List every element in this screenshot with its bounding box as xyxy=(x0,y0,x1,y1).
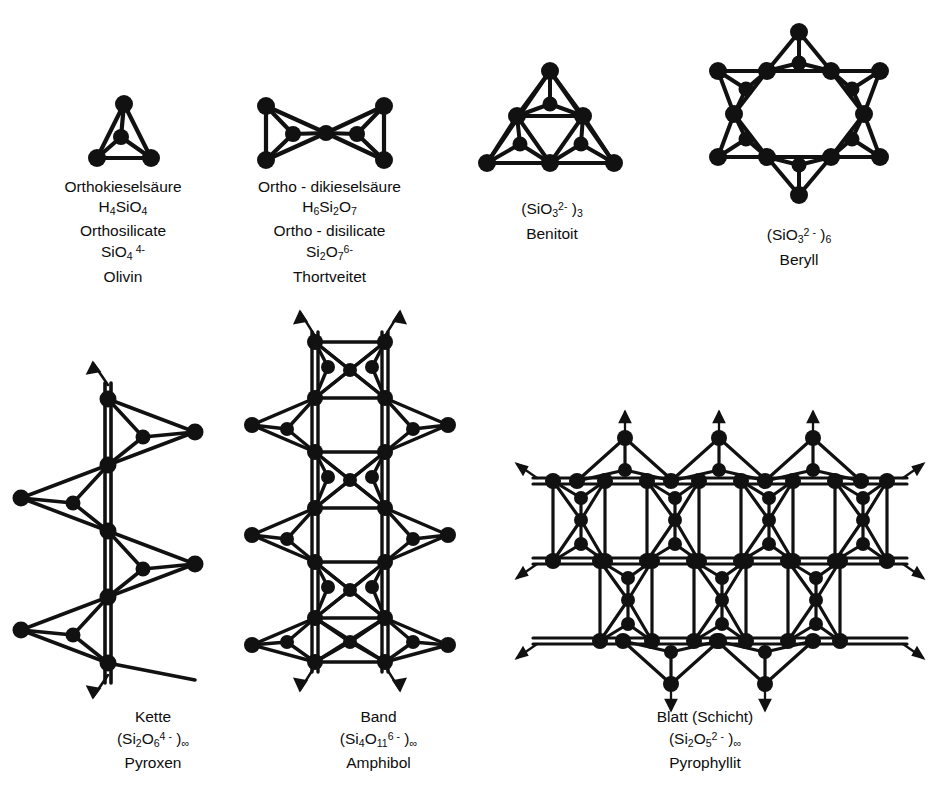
sheet-arrow-left-3 xyxy=(517,564,537,578)
orthosilicate-diagram xyxy=(68,92,178,172)
disilicate-acid-formula: H6Si2O7 xyxy=(222,197,437,221)
sheet-mineral: Pyrophyllit xyxy=(590,753,820,773)
caption-chain: Kette (Si2O64 - )∞ Pyroxen xyxy=(58,707,248,773)
orthosilicate-german-name: Orthokieselsäure xyxy=(23,177,223,197)
chain-diagram xyxy=(55,365,235,695)
band-arrow-bottom-right xyxy=(385,666,405,690)
six-ring-mineral: Beryll xyxy=(709,250,889,270)
band-arrow-bottom-left xyxy=(295,666,315,690)
orthosilicate-english-name: Orthosilicate xyxy=(23,221,223,241)
sheet-arrow-left-1 xyxy=(517,464,537,478)
six-ring-anion-formula: (SiO32 - )6 xyxy=(709,223,889,250)
band-mineral: Amphibol xyxy=(281,753,476,773)
sheet-arrow-left-2 xyxy=(517,644,537,658)
three-ring-mineral: Benitoit xyxy=(462,224,642,244)
three-ring-diagram xyxy=(473,58,628,178)
figure-disilicate xyxy=(243,90,408,175)
orthosilicate-acid-formula: H4SiO4 xyxy=(23,197,223,221)
band-title: Band xyxy=(281,707,476,727)
caption-disilicate: Ortho - dikieselsäure H6Si2O7 Ortho - di… xyxy=(222,177,437,286)
figure-band xyxy=(270,312,470,692)
disilicate-german-name: Ortho - dikieselsäure xyxy=(222,177,437,197)
caption-sheet: Blatt (Schicht) (Si2O52 - )∞ Pyrophyllit xyxy=(590,707,820,773)
disilicate-diagram xyxy=(243,90,408,175)
band-arrow-top-left xyxy=(295,312,315,336)
sheet-arrow-right-2 xyxy=(903,564,923,578)
sheet-arrow-right-1 xyxy=(903,464,923,478)
disilicate-anion-formula: Si2O76- xyxy=(222,240,437,267)
band-diagram xyxy=(270,312,470,692)
caption-six-ring: (SiO32 - )6 Beryll xyxy=(709,223,889,269)
caption-three-ring: (SiO32- )3 Benitoit xyxy=(462,197,642,243)
chain-arrow-bottom xyxy=(88,675,108,697)
band-arrow-top-right xyxy=(385,312,405,336)
figure-three-ring xyxy=(473,58,628,178)
sheet-diagram xyxy=(515,420,925,710)
figure-six-ring xyxy=(714,26,884,201)
sheet-arrow-right-3 xyxy=(903,644,923,658)
orthosilicate-mineral: Olivin xyxy=(23,267,223,287)
sheet-anion-formula: (Si2O52 - )∞ xyxy=(590,727,820,754)
figure-orthosilicate xyxy=(68,92,178,172)
chain-anion-formula: (Si2O64 - )∞ xyxy=(58,727,248,754)
figure-chain xyxy=(55,365,235,695)
band-anion-formula: (Si4O116 - )∞ xyxy=(281,727,476,754)
chain-title: Kette xyxy=(58,707,248,727)
orthosilicate-anion-formula: SiO4 4- xyxy=(23,240,223,267)
three-ring-anion-formula: (SiO32- )3 xyxy=(462,197,642,224)
sheet-title: Blatt (Schicht) xyxy=(590,707,820,727)
chain-arrow-top xyxy=(88,363,108,385)
caption-orthosilicate: Orthokieselsäure H4SiO4 Orthosilicate Si… xyxy=(23,177,223,286)
figure-sheet xyxy=(515,420,925,710)
caption-band: Band (Si4O116 - )∞ Amphibol xyxy=(281,707,476,773)
disilicate-mineral: Thortveitet xyxy=(222,267,437,287)
six-ring-diagram xyxy=(714,26,884,201)
disilicate-english-name: Ortho - disilicate xyxy=(222,221,437,241)
chain-mineral: Pyroxen xyxy=(58,753,248,773)
